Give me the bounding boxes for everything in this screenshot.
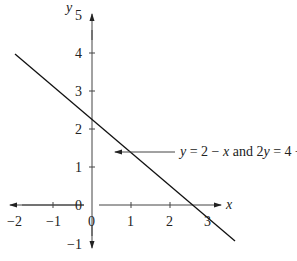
chart-container: y = 2 − x and 2y = 4 − 2x y x 5 4 3 2 1 … <box>0 0 297 261</box>
x-tick-label: 0 <box>88 214 95 229</box>
y-tick-label: 0 <box>75 198 82 213</box>
y-tick-label: 2 <box>75 122 82 137</box>
x-tick-label: −2 <box>7 214 22 229</box>
x-tick-label: −1 <box>46 214 61 229</box>
y-tick-label: 5 <box>75 8 82 23</box>
x-axis-label: x <box>225 197 233 212</box>
y-tick-label: 4 <box>75 46 82 61</box>
line-chart: y = 2 − x and 2y = 4 − 2x y x 5 4 3 2 1 … <box>0 0 297 261</box>
y-tick-label: 3 <box>75 84 82 99</box>
y-axis-label: y <box>64 0 73 15</box>
y-tick-label: −1 <box>67 237 82 252</box>
x-tick-label: 2 <box>166 214 173 229</box>
x-tick-label: 1 <box>127 214 134 229</box>
x-tick-label: 3 <box>204 214 211 229</box>
y-tick-label: 1 <box>75 160 82 175</box>
y-axis <box>89 14 95 248</box>
annotation-label: y = 2 − x and 2y = 4 − 2x <box>178 144 297 159</box>
